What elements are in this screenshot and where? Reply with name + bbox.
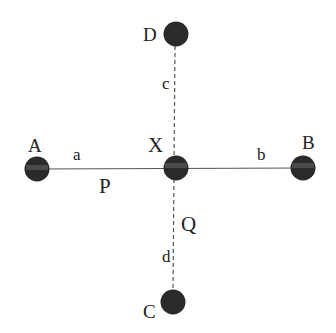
label-point-p: P (99, 174, 111, 198)
label-segment-c: c (162, 74, 170, 93)
label-a-node: A (28, 135, 42, 156)
label-segment-d: d (162, 247, 171, 266)
node-x (164, 156, 189, 181)
node-a (25, 157, 50, 182)
node-d (164, 22, 189, 47)
diagram-canvas: A B C D X a b c d P Q (0, 0, 336, 333)
label-segment-a: a (73, 145, 81, 164)
node-c (161, 290, 186, 315)
label-b-node: B (302, 132, 315, 153)
label-point-q: Q (181, 212, 196, 236)
node-b (291, 156, 316, 181)
label-d-node: D (143, 24, 157, 45)
label-segment-b: b (257, 145, 266, 164)
label-x-node: X (148, 133, 163, 157)
label-c-node: C (143, 301, 156, 322)
